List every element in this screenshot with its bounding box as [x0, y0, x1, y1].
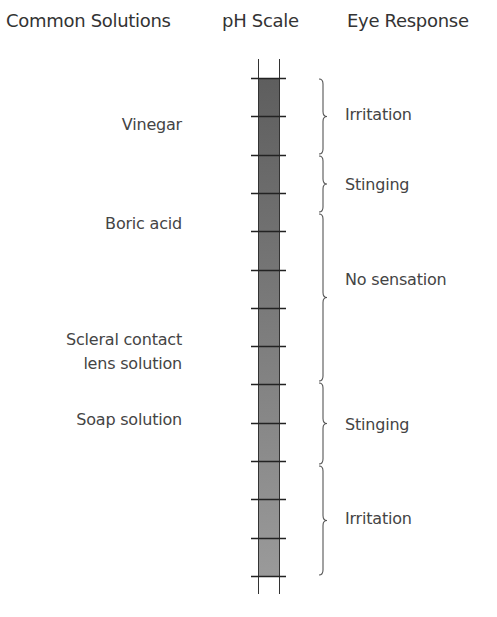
solution-soap: Soap solution — [76, 408, 182, 432]
solution-scleral-lens: Scleral contact lens solution — [66, 328, 182, 376]
solution-vinegar: Vinegar — [122, 113, 182, 137]
solution-boric-acid: Boric acid — [105, 212, 182, 236]
response-brace — [319, 156, 327, 212]
response-brace — [319, 383, 327, 464]
solution-scleral-line2: lens solution — [66, 352, 182, 376]
response-stinging-bottom: Stinging — [345, 415, 409, 434]
response-irritation-bottom: Irritation — [345, 509, 412, 528]
response-brace — [319, 79, 327, 154]
response-brace — [319, 466, 327, 575]
response-stinging-top: Stinging — [345, 175, 409, 194]
response-irritation-top: Irritation — [345, 105, 412, 124]
ph-bar — [258, 59, 280, 594]
solution-scleral-line1: Scleral contact — [66, 328, 182, 352]
figure-caption-cropped — [0, 610, 497, 617]
response-braces — [319, 79, 327, 575]
ph-scale-diagram — [0, 0, 497, 617]
response-brace — [319, 214, 327, 381]
response-no-sensation: No sensation — [345, 270, 447, 289]
